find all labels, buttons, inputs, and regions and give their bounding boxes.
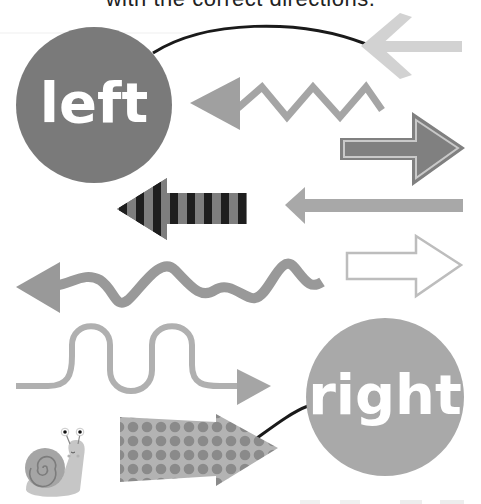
wavy-arrow — [16, 262, 322, 313]
left-circle-label: left — [16, 27, 172, 183]
bottom-edge-marks — [300, 500, 464, 504]
striped-arrow — [117, 178, 247, 240]
left-label-text: left — [40, 70, 148, 135]
hollow-outline-arrow — [347, 236, 461, 296]
right-circle-label: right — [306, 318, 464, 476]
snail-illustration — [25, 428, 85, 497]
loop-wave-arrow — [16, 326, 271, 405]
connector-line-right — [257, 406, 308, 438]
connector-line-left — [153, 26, 366, 53]
right-label-text: right — [308, 362, 462, 427]
outlined-block-arrow — [340, 112, 465, 186]
light-chevron-arrow — [361, 13, 462, 79]
polka-dot-arrow — [120, 414, 278, 486]
zigzag-arrow — [190, 77, 382, 130]
long-thin-arrow — [285, 187, 463, 224]
